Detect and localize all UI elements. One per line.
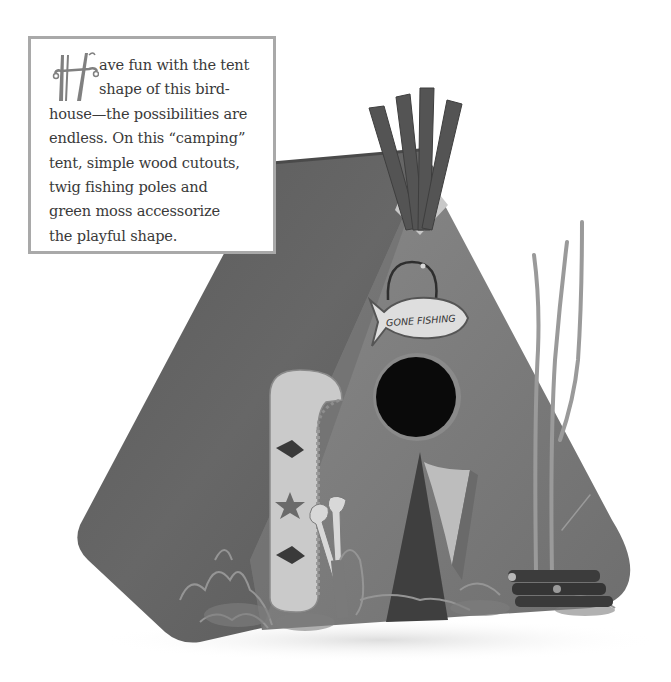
caption-line-4: endless. On this “camping” (49, 126, 271, 150)
caption-line-6: twig fishing poles and (49, 175, 271, 199)
caption-line-3: house—the possibilities are (49, 102, 271, 126)
log-pile (508, 570, 613, 607)
caption-line-1: ave fun with the tent (49, 53, 271, 77)
caption-line-8: the playful shape. (49, 224, 271, 248)
caption-line-2: shape of this bird- (49, 77, 271, 101)
caption-box: ave fun with the tent shape of this bird… (28, 36, 276, 254)
entrance-hole-inner (376, 357, 456, 437)
hanger-nail (421, 264, 426, 269)
caption-text: ave fun with the tent shape of this bird… (49, 53, 271, 248)
caption-line-5: tent, simple wood cutouts, (49, 151, 271, 175)
caption-line-7: green moss accessorize (49, 199, 271, 223)
